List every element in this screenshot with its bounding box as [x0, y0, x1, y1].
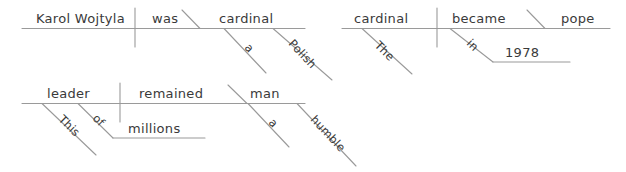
- d2-complement-label: pope: [561, 11, 595, 26]
- d3-complement-slant: [228, 85, 247, 104]
- sentence-diagram-canvas: Karol Wojtyla was cardinal a Polish card…: [0, 0, 626, 172]
- diagram-3-group: leader This of millions remained man a h…: [22, 83, 356, 166]
- d3-prep-object-label: millions: [128, 121, 180, 136]
- d1-verb-label: was: [152, 11, 178, 26]
- d1-subject-label: Karol Wojtyla: [36, 11, 125, 26]
- diagram-2-group: cardinal The became pope in 1978: [342, 8, 610, 74]
- d2-subject-label: cardinal: [354, 11, 408, 26]
- d1-adjective-label: Polish: [286, 36, 320, 71]
- d2-complement-slant: [527, 10, 545, 29]
- d3-complement-label: man: [250, 86, 280, 101]
- d2-prep-object-label: 1978: [505, 45, 539, 60]
- d2-article-label: The: [371, 38, 397, 64]
- d3-preposition-label: of: [90, 111, 109, 130]
- d3-adjective-label: humble: [308, 112, 349, 154]
- d3-subject-label: leader: [47, 86, 90, 101]
- diagram-1-group: Karol Wojtyla was cardinal a Polish: [22, 8, 332, 80]
- d3-verb-label: remained: [139, 86, 203, 101]
- d2-verb-label: became: [452, 11, 506, 26]
- d1-complement-label: cardinal: [219, 11, 273, 26]
- d3-determiner-label: This: [55, 112, 83, 140]
- d1-article-label: a: [242, 40, 257, 55]
- d3-article-label: a: [266, 115, 281, 130]
- d1-complement-slant: [182, 10, 200, 29]
